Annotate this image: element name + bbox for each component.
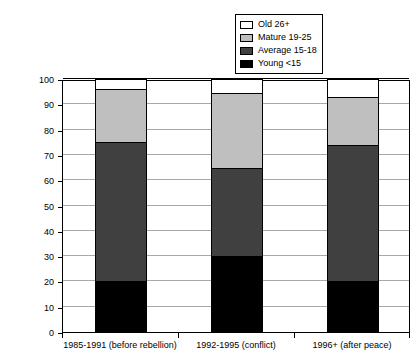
bar-segment[interactable]: [211, 168, 263, 257]
bar-segment[interactable]: [327, 145, 379, 282]
y-tick-label: 10: [32, 303, 54, 313]
legend-swatch-mature: [240, 34, 253, 42]
x-tick-label: 1992-1995 (conflict): [196, 340, 276, 350]
stacked-bar[interactable]: [327, 79, 379, 332]
chart-legend: Old 26+ Mature 19-25 Average 15-18 Young…: [235, 14, 323, 74]
legend-item-young: Young <15: [240, 57, 317, 70]
bar-segment[interactable]: [211, 93, 263, 168]
bar-segment[interactable]: [327, 281, 379, 332]
legend-label-mature: Mature 19-25: [258, 31, 312, 44]
y-tick-label: 90: [32, 100, 54, 110]
bar-segment[interactable]: [95, 281, 147, 332]
x-tick-mark: [62, 333, 63, 338]
stacked-bar[interactable]: [95, 79, 147, 332]
x-tick-mark: [294, 333, 295, 338]
legend-swatch-average: [240, 47, 253, 55]
y-tick-label: 20: [32, 277, 54, 287]
x-tick-label: 1996+ (after peace): [313, 340, 392, 350]
plot-area: [62, 80, 410, 333]
legend-label-young: Young <15: [258, 57, 301, 70]
y-tick-label: 40: [32, 227, 54, 237]
bar-segment[interactable]: [95, 89, 147, 142]
bar-segment[interactable]: [327, 79, 379, 97]
legend-item-average: Average 15-18: [240, 44, 317, 57]
y-tick-label: 100: [32, 75, 54, 85]
y-tick-label: 50: [32, 202, 54, 212]
y-tick-label: 30: [32, 252, 54, 262]
bar-segment[interactable]: [211, 256, 263, 332]
x-tick-mark: [409, 333, 410, 338]
stacked-bar[interactable]: [211, 79, 263, 332]
legend-item-old: Old 26+: [240, 18, 317, 31]
y-tick-label: 80: [32, 126, 54, 136]
y-tick-label: 70: [32, 151, 54, 161]
x-tick-label: 1985-1991 (before rebellion): [63, 340, 177, 350]
x-tick-mark: [178, 333, 179, 338]
bar-segment[interactable]: [327, 97, 379, 145]
legend-label-old: Old 26+: [258, 18, 290, 31]
legend-swatch-young: [240, 60, 253, 68]
legend-swatch-old: [240, 21, 253, 29]
y-tick-label: 0: [32, 328, 54, 338]
legend-label-average: Average 15-18: [258, 44, 317, 57]
bar-segment[interactable]: [95, 79, 147, 89]
bar-segment[interactable]: [95, 142, 147, 281]
y-tick-label: 60: [32, 176, 54, 186]
legend-item-mature: Mature 19-25: [240, 31, 317, 44]
bar-segment[interactable]: [211, 79, 263, 93]
